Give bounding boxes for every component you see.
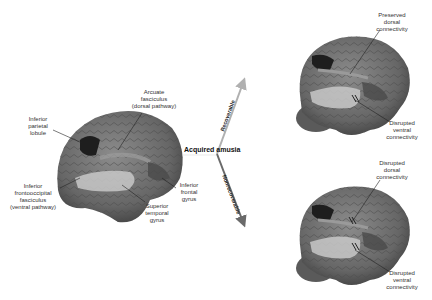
label-ifof: Inferior frontooccipital fasciculus (ven… [4, 183, 62, 211]
acquired-amusia-title: Acquired amusia [184, 146, 240, 153]
label-preserved-dorsal: Preserved dorsal connectivity [370, 12, 414, 33]
label-superior-temporal-gyrus: Superior temporal gyrus [140, 203, 174, 224]
label-disrupted-dorsal: Disrupted dorsal connectivity [370, 160, 414, 181]
label-disrupted-ventral-top: Disrupted ventral connectivity [380, 120, 424, 141]
recoverable-arrow [217, 83, 243, 154]
label-inferior-frontal-gyrus: Inferior frontal gyrus [174, 182, 204, 203]
label-disrupted-ventral-bottom: Disrupted ventral connectivity [380, 270, 424, 291]
label-inferior-parietal-lobule: Inferior parietal lobule [20, 116, 56, 137]
label-arcuate-fasciculus: Arcuate fasciculus (dorsal pathway) [128, 89, 180, 110]
